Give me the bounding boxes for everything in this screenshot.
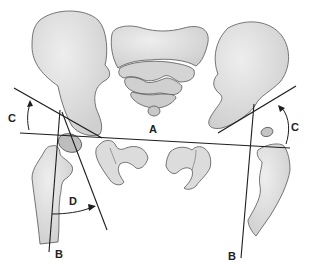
sacral-segment-4 bbox=[131, 92, 176, 108]
right-femur bbox=[248, 144, 290, 236]
label-c-left: C bbox=[8, 113, 16, 124]
label-b-right: B bbox=[228, 251, 236, 262]
left-ilium bbox=[32, 11, 110, 136]
line-b-right bbox=[241, 104, 254, 258]
label-b-left: B bbox=[55, 249, 63, 260]
right-femoral-head bbox=[260, 126, 274, 138]
arrowhead-d bbox=[88, 204, 96, 211]
arrowhead-c-left bbox=[27, 100, 33, 107]
label-d: D bbox=[69, 196, 77, 207]
coccyx bbox=[148, 106, 160, 116]
arc-angle-c-left bbox=[28, 104, 30, 130]
arc-angle-c-right bbox=[282, 108, 289, 144]
right-ischiopubic bbox=[166, 147, 211, 190]
label-c-right: C bbox=[291, 122, 299, 133]
left-femur bbox=[32, 145, 73, 244]
label-a: A bbox=[149, 124, 157, 135]
left-ischiopubic bbox=[96, 140, 148, 184]
right-ilium bbox=[209, 22, 289, 129]
